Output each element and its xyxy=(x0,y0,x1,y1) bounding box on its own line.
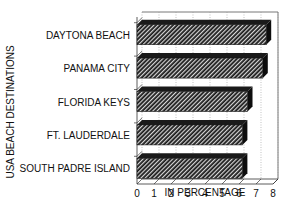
category-label: FLORIDA KEYS xyxy=(58,97,131,108)
category-labels: DAYTONA BEACHPANAMA CITYFLORIDA KEYSFT. … xyxy=(20,30,131,175)
category-label: FT. LAUDERDALE xyxy=(47,130,131,141)
category-label: DAYTONA BEACH xyxy=(46,30,130,41)
bar xyxy=(134,51,268,78)
y-axis-label: USA BEACH DESTINATIONS xyxy=(5,45,16,179)
x-tick-label: 0 xyxy=(134,188,140,199)
category-label: SOUTH PADRE ISLAND xyxy=(20,163,130,174)
bar xyxy=(134,151,247,178)
bar xyxy=(134,118,247,145)
x-axis-label: IN PERCENTAGE xyxy=(165,187,246,198)
bar xyxy=(134,85,253,112)
x-tick-label: 1 xyxy=(151,188,157,199)
bar xyxy=(134,18,271,45)
category-label: PANAMA CITY xyxy=(64,63,131,74)
x-tick-label: 8 xyxy=(270,188,276,199)
bar-chart: DAYTONA BEACHPANAMA CITYFLORIDA KEYSFT. … xyxy=(0,0,296,208)
bars xyxy=(134,18,271,179)
x-tick-label: 7 xyxy=(253,188,259,199)
